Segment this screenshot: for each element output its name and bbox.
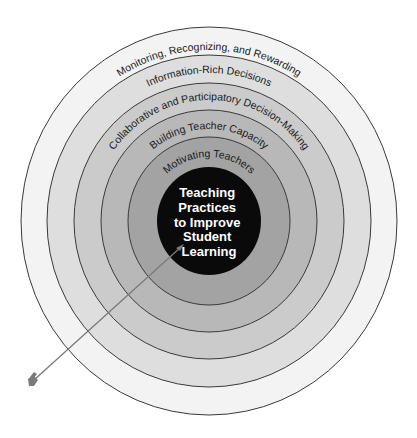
core-line-2: Practices [178,200,236,215]
concentric-target-diagram: Monitoring, Recognizing, and Rewarding I… [0,0,417,438]
arrow-fletching-icon [28,372,38,386]
core-label: Teaching Practices to Improve Student Le… [174,185,244,259]
core-line-4: Student [183,229,232,244]
core-line-1: Teaching [179,185,235,200]
core-line-5: Learning [182,244,237,259]
core-line-3: to Improve [174,215,240,230]
